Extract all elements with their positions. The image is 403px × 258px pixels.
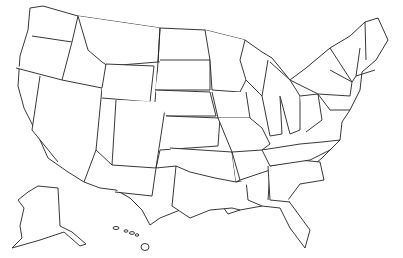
state-borders — [16, 6, 388, 248]
map-canvas — [0, 0, 403, 258]
hawaii — [113, 227, 149, 251]
alaska — [12, 186, 86, 248]
